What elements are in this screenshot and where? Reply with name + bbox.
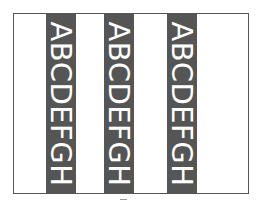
band-3-text: ABCDEFGH xyxy=(167,21,197,186)
vertical-band-3: ABCDEFGH xyxy=(167,14,197,193)
framed-panel: ABCDEFGH ABCDEFGH ABCDEFGH xyxy=(13,13,249,194)
vertical-band-2: ABCDEFGH xyxy=(104,14,134,193)
vertical-band-1: ABCDEFGH xyxy=(46,14,76,193)
scan-artifact-mark xyxy=(120,199,127,200)
band-2-text: ABCDEFGH xyxy=(104,21,134,186)
band-1-text: ABCDEFGH xyxy=(46,21,76,186)
